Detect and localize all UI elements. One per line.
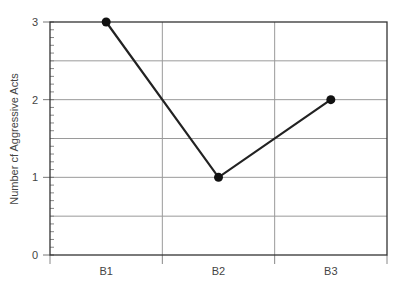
axis-ticks xyxy=(43,22,387,264)
data-point-marker xyxy=(214,173,223,182)
gridlines xyxy=(50,22,387,255)
y-tick-label: 2 xyxy=(32,94,38,106)
y-tick-labels: 0123 xyxy=(32,16,38,261)
y-tick-label: 3 xyxy=(32,16,38,28)
data-point-marker xyxy=(102,18,111,27)
line-chart: 0123 B1B2B3 xyxy=(0,0,400,291)
data-point-marker xyxy=(326,95,335,104)
x-tick-label: B3 xyxy=(324,265,337,277)
y-tick-label: 0 xyxy=(32,249,38,261)
y-tick-label: 1 xyxy=(32,171,38,183)
x-tick-label: B1 xyxy=(99,265,112,277)
x-tick-label: B2 xyxy=(212,265,225,277)
x-tick-labels: B1B2B3 xyxy=(99,265,337,277)
